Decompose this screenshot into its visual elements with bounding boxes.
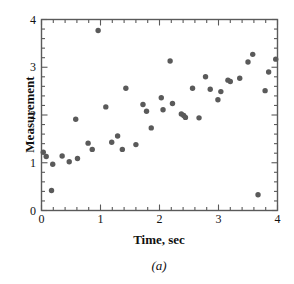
- data-point: [144, 108, 149, 113]
- data-point: [49, 188, 54, 193]
- x-axis-title: Time, sec: [41, 232, 277, 248]
- data-point: [266, 69, 271, 74]
- axis-ticks: [42, 20, 278, 211]
- y-axis-title: Measurement: [20, 19, 40, 210]
- data-point: [196, 115, 201, 120]
- data-point: [255, 192, 260, 197]
- data-point: [44, 154, 49, 159]
- data-point: [133, 142, 138, 147]
- data-point: [149, 125, 154, 130]
- data-point: [90, 147, 95, 152]
- data-points: [41, 28, 279, 198]
- x-tick-label: 0: [39, 212, 45, 227]
- data-point: [95, 28, 100, 33]
- data-point: [67, 159, 72, 164]
- figure-caption: (a): [41, 258, 277, 274]
- data-point: [262, 88, 267, 93]
- data-point: [170, 101, 175, 106]
- data-point: [218, 89, 223, 94]
- data-point: [140, 102, 145, 107]
- data-point: [160, 107, 165, 112]
- data-point: [75, 156, 80, 161]
- data-point: [167, 58, 172, 63]
- data-point: [159, 95, 164, 100]
- data-point: [183, 115, 188, 120]
- data-point: [203, 74, 208, 79]
- scatter-chart-figure: 0123401234 Measurement Time, sec (a): [0, 0, 294, 284]
- x-tick-label: 2: [157, 212, 163, 227]
- data-point: [103, 104, 108, 109]
- data-point: [109, 140, 114, 145]
- x-tick-label: 3: [216, 212, 222, 227]
- data-point: [59, 153, 64, 158]
- data-point: [208, 87, 213, 92]
- data-point: [273, 56, 278, 61]
- data-point: [237, 76, 242, 81]
- data-point: [245, 59, 250, 64]
- data-point: [123, 86, 128, 91]
- data-point: [115, 133, 120, 138]
- axis-frame: [42, 20, 278, 211]
- data-point: [120, 147, 125, 152]
- data-point: [190, 86, 195, 91]
- data-point: [50, 161, 55, 166]
- x-tick-label: 4: [275, 212, 281, 227]
- data-point: [73, 117, 78, 122]
- data-point: [228, 79, 233, 84]
- data-point: [215, 97, 220, 102]
- x-tick-label: 1: [98, 212, 104, 227]
- data-point: [250, 52, 255, 57]
- data-point: [85, 140, 90, 145]
